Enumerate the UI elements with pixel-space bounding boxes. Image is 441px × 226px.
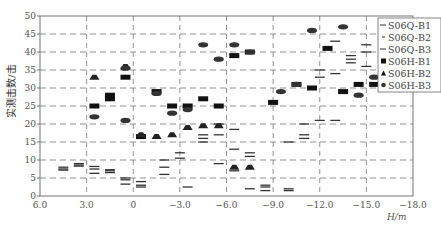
y-tick-label: 5 (30, 173, 36, 183)
x-axis-label: H/m (386, 212, 406, 222)
y-tick-label: 30 (25, 83, 37, 93)
x-tick-label: 6.0 (33, 200, 48, 210)
y-tick-label: 20 (25, 119, 37, 129)
legend-item-label: S06Q-B1 (388, 20, 431, 31)
legend-item-label: S06H-B1 (388, 56, 431, 67)
y-tick-label: 50 (25, 11, 37, 21)
y-tick-label: 40 (25, 47, 37, 57)
y-axis-label: 实测击数/击 (5, 64, 17, 117)
x-tick-label: 0 (130, 200, 136, 210)
x-tick-label: −12.0 (306, 200, 334, 210)
legend-item-label: S06H-B2 (388, 68, 431, 79)
x-tick-label: −6.0 (216, 200, 238, 210)
legend-item-label: S06H-B3 (388, 80, 431, 91)
legend-item-label: S06Q-B3 (388, 44, 431, 55)
legend: S06Q-B1S06Q-B2S06Q-B3S06H-B1S06H-B2S06H-… (378, 18, 441, 92)
y-tick-label: 45 (25, 29, 37, 39)
axes: 051015202530354045506.03.00−3.0−6.0−9.0−… (5, 11, 427, 222)
y-tick-label: 35 (25, 65, 37, 75)
y-tick-label: 10 (25, 155, 37, 165)
legend-item-label: S06Q-B2 (388, 32, 431, 43)
y-tick-label: 25 (25, 101, 37, 111)
x-tick-label: −3.0 (169, 200, 191, 210)
y-tick-label: 15 (25, 137, 37, 147)
chart: 051015202530354045506.03.00−3.0−6.0−9.0−… (0, 0, 441, 226)
x-tick-label: −15.0 (353, 200, 381, 210)
x-tick-label: −18.0 (399, 200, 427, 210)
x-tick-label: −9.0 (262, 200, 284, 210)
data-points (58, 24, 379, 190)
x-tick-label: 3.0 (79, 200, 94, 210)
